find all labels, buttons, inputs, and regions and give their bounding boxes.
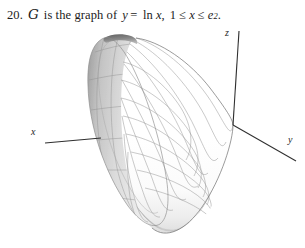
surface-plot: [0, 0, 305, 248]
z-axis-label: z: [225, 27, 229, 38]
y-axis-line: [233, 125, 296, 161]
surface-outer-shell: [121, 38, 233, 233]
y-axis-label: y: [288, 134, 292, 145]
figure-root: 20.Gis the graph ofy=lnx,1≤x≤e2.: [0, 0, 305, 248]
x-axis-label: x: [31, 126, 35, 137]
z-axis-line: [233, 31, 239, 125]
x-axis-stub: [45, 138, 101, 143]
